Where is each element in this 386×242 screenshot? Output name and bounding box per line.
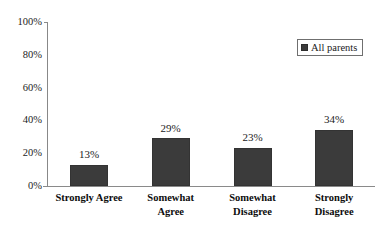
bar-group: 23% — [212, 22, 294, 186]
category-label-line: Strongly — [293, 191, 375, 205]
x-axis-label-somewhat-disagree: Somewhat Disagree — [212, 191, 294, 218]
y-axis-tick-label: 100% — [2, 17, 42, 28]
bar-value-label: 29% — [161, 123, 181, 134]
bar-somewhat-disagree[interactable] — [234, 148, 272, 186]
bar-strongly-disagree[interactable] — [315, 130, 353, 186]
x-axis-category-labels: Strongly Agree Somewhat Agree Somewhat D… — [48, 191, 375, 239]
x-axis-line — [47, 186, 375, 187]
bar-group: 13% — [48, 22, 130, 186]
y-axis-tick-labels: 100% 80% 60% 40% 20% 0% — [2, 0, 42, 242]
category-label-line: Strongly Agree — [48, 191, 130, 205]
bar-value-label: 34% — [324, 114, 344, 125]
category-label-line: Disagree — [293, 205, 375, 219]
x-axis-label-strongly-agree: Strongly Agree — [48, 191, 130, 205]
bar-value-label: 23% — [242, 132, 262, 143]
y-axis-tick-label: 60% — [2, 83, 42, 94]
bar-somewhat-agree[interactable] — [152, 138, 190, 186]
x-axis-label-somewhat-agree: Somewhat Agree — [130, 191, 212, 218]
category-label-line: Somewhat — [212, 191, 294, 205]
x-axis-label-strongly-disagree: Strongly Disagree — [293, 191, 375, 218]
legend-entry-label: All parents — [311, 42, 357, 53]
category-label-line: Disagree — [212, 205, 294, 219]
y-axis-tick-label: 20% — [2, 148, 42, 159]
bar-strongly-agree[interactable] — [70, 165, 108, 186]
bar-value-label: 13% — [79, 149, 99, 160]
category-label-line: Somewhat — [130, 191, 212, 205]
bar-group: 29% — [130, 22, 212, 186]
y-axis-tick-label: 40% — [2, 115, 42, 126]
bar-chart: 100% 80% 60% 40% 20% 0% 13% 29% 23% 34% — [0, 0, 386, 242]
category-label-line: Agree — [130, 205, 212, 219]
y-axis-tick-label: 0% — [2, 181, 42, 192]
y-axis-tick-mark-bottom — [43, 186, 48, 187]
chart-legend[interactable]: All parents — [297, 39, 363, 56]
square-swatch-icon — [301, 44, 308, 51]
y-axis-tick-label: 80% — [2, 50, 42, 61]
